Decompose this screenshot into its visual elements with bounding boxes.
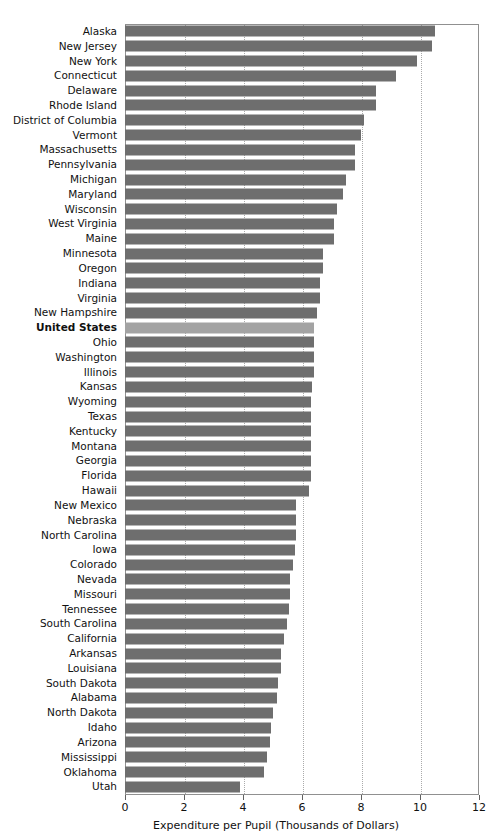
y-axis-labels: AlaskaNew JerseyNew YorkConnecticutDelaw…: [0, 24, 121, 795]
y-axis-label-row: South Carolina: [0, 617, 121, 632]
y-axis-label: Kansas: [80, 381, 121, 392]
bar: [125, 426, 311, 437]
y-axis-label: Utah: [92, 781, 121, 792]
y-axis-label: Alaska: [83, 26, 121, 37]
y-axis-label: New Mexico: [54, 500, 121, 511]
y-axis-label-row: Indiana: [0, 276, 121, 291]
bar-row: [125, 602, 479, 617]
bar: [125, 455, 311, 466]
bar-row: [125, 498, 479, 513]
bar: [125, 367, 314, 378]
y-axis-label-row: Florida: [0, 468, 121, 483]
y-axis-label-row: Montana: [0, 439, 121, 454]
y-axis-label: Hawaii: [82, 485, 121, 496]
bar-row: [125, 68, 479, 83]
y-axis-label: Wisconsin: [65, 204, 121, 215]
bar-row: [125, 350, 479, 365]
y-axis-label-row: New Mexico: [0, 498, 121, 513]
x-axis-title-text: Expenditure per Pupil (Thousands of Doll…: [153, 819, 399, 832]
y-axis-label: Tennessee: [62, 604, 121, 615]
y-axis-label-row: United States: [0, 320, 121, 335]
bar-row: [125, 365, 479, 380]
bar-row: [125, 231, 479, 246]
bar: [125, 722, 271, 733]
y-axis-label-row: Washington: [0, 350, 121, 365]
y-axis-label: Vermont: [73, 130, 121, 141]
y-axis-label: District of Columbia: [13, 115, 121, 126]
bar: [125, 381, 312, 392]
x-axis-tick: [420, 795, 421, 800]
y-axis-label-row: Vermont: [0, 128, 121, 143]
y-axis-label: New York: [69, 56, 121, 67]
y-axis-label: Alabama: [71, 692, 121, 703]
y-axis-label-row: West Virginia: [0, 217, 121, 232]
y-axis-label: Iowa: [92, 544, 121, 555]
bar: [125, 633, 284, 644]
bar: [125, 470, 311, 481]
bar: [125, 574, 290, 585]
y-axis-label: Texas: [88, 411, 121, 422]
bar: [125, 263, 323, 274]
bar-row: [125, 143, 479, 158]
x-axis-tick: [184, 795, 185, 800]
y-axis-label-row: Maryland: [0, 187, 121, 202]
bar-row: [125, 691, 479, 706]
bar: [125, 174, 346, 185]
y-axis-label-row: Texas: [0, 409, 121, 424]
y-axis-label-row: California: [0, 631, 121, 646]
bar-row: [125, 128, 479, 143]
bar: [125, 648, 281, 659]
bar: [125, 293, 320, 304]
y-axis-label-row: Tennessee: [0, 602, 121, 617]
bar: [125, 56, 417, 67]
bar-row: [125, 217, 479, 232]
x-axis-tick-label: 4: [240, 801, 247, 814]
y-axis-label: North Dakota: [47, 707, 121, 718]
bar-row: [125, 202, 479, 217]
x-axis-tick-label: 6: [299, 801, 306, 814]
x-axis-tick-label: 10: [413, 801, 427, 814]
y-axis-label: United States: [36, 322, 121, 333]
y-axis-label: Michigan: [70, 174, 121, 185]
bar-row: [125, 735, 479, 750]
y-axis-label: Arkansas: [69, 648, 121, 659]
bar: [125, 707, 273, 718]
y-axis-label-row: Massachusetts: [0, 143, 121, 158]
y-axis-label: Massachusetts: [39, 144, 121, 155]
y-axis-label-row: Michigan: [0, 172, 121, 187]
bar-row: [125, 424, 479, 439]
y-axis-label: South Dakota: [46, 678, 121, 689]
x-axis-tick: [243, 795, 244, 800]
bar-row: [125, 765, 479, 780]
y-axis-label-row: Oregon: [0, 261, 121, 276]
y-axis-label: Virginia: [77, 293, 121, 304]
bar: [125, 26, 435, 37]
bar-row: [125, 187, 479, 202]
y-axis-label-row: Colorado: [0, 557, 121, 572]
bar-row: [125, 676, 479, 691]
bar-row: [125, 483, 479, 498]
bar: [125, 559, 293, 570]
bar: [125, 85, 376, 96]
y-axis-label: California: [67, 633, 121, 644]
y-axis-label-row: Iowa: [0, 542, 121, 557]
y-axis-label: North Carolina: [41, 530, 121, 541]
y-axis-label: Arizona: [78, 737, 121, 748]
y-axis-label: Pennsylvania: [48, 159, 121, 170]
bar: [125, 322, 314, 333]
bar: [125, 159, 355, 170]
bar-row: [125, 39, 479, 54]
y-axis-label-row: Minnesota: [0, 246, 121, 261]
y-axis-label: Montana: [71, 441, 121, 452]
bar: [125, 663, 281, 674]
bar-row: [125, 291, 479, 306]
bar-row: [125, 631, 479, 646]
bar: [125, 737, 270, 748]
y-axis-label-row: Oklahoma: [0, 765, 121, 780]
y-axis-label: Missouri: [74, 589, 121, 600]
y-axis-label-row: Wisconsin: [0, 202, 121, 217]
bar: [125, 515, 296, 526]
bar: [125, 307, 317, 318]
y-axis-label-row: Connecticut: [0, 68, 121, 83]
bar: [125, 530, 296, 541]
